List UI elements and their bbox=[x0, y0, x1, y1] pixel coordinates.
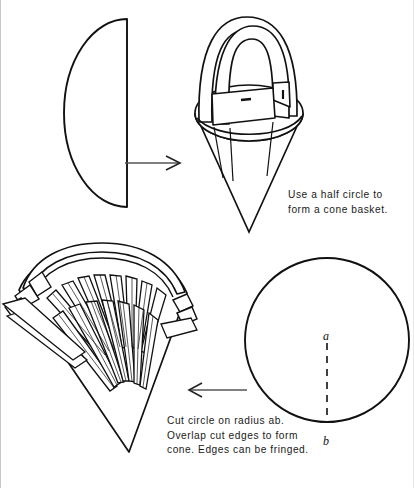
caption-top-line-2: form a cone basket. bbox=[288, 203, 388, 218]
caption-bottom-line-2: Overlap cut edges to form bbox=[167, 429, 309, 444]
cone-basket-with-handle bbox=[195, 17, 303, 232]
caption-bottom-line-3: cone. Edges can be fringed. bbox=[167, 443, 309, 458]
instruction-sheet: Use a half circle to form a cone basket.… bbox=[0, 0, 414, 488]
caption-top-line-1: Use a half circle to bbox=[288, 188, 388, 203]
half-circle-template bbox=[64, 19, 127, 207]
caption-bottom: Cut circle on radius ab. Overlap cut edg… bbox=[167, 414, 309, 458]
point-label-a: a bbox=[323, 329, 329, 344]
caption-bottom-line-1: Cut circle on radius ab. bbox=[167, 414, 309, 429]
point-label-b: b bbox=[323, 434, 329, 449]
caption-top: Use a half circle to form a cone basket. bbox=[288, 188, 388, 217]
right-arrow bbox=[125, 156, 180, 170]
left-arrow bbox=[189, 383, 247, 397]
